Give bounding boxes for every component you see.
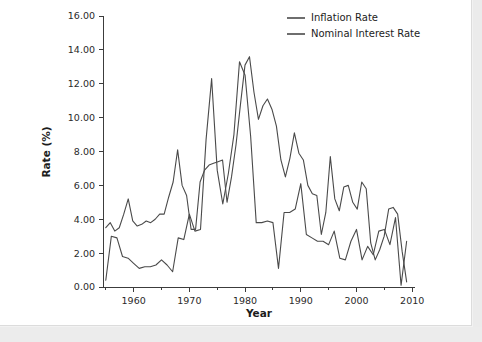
y-tick-label: 4.00 [74,214,95,225]
x-tick-label: 2000 [344,295,368,306]
y-tick-label: 0.00 [74,281,95,292]
y-tick-label: 14.00 [68,44,95,55]
series-line-nominal-interest-rate [106,57,407,282]
x-tick-label: 1970 [177,295,201,306]
page-right-margin [473,0,482,327]
y-axis-tick-labels: 0.002.004.006.008.0010.0012.0014.0016.00 [68,10,95,292]
x-tick-label: 1980 [233,295,257,306]
line-chart: 0.002.004.006.008.0010.0012.0014.0016.00… [0,0,472,326]
x-tick-label: 2010 [400,295,424,306]
screenshot-page: 0.002.004.006.008.0010.0012.0014.0016.00… [0,0,482,342]
series-line-inflation-rate [106,62,407,286]
y-tick-label: 6.00 [74,180,95,191]
x-axis-title: Year [245,307,273,319]
page-bottom-margin [0,327,482,342]
x-tick-label: 1960 [122,295,146,306]
legend-label: Nominal Interest Rate [311,28,420,39]
chart-axes [99,16,415,292]
legend-label: Inflation Rate [311,12,378,23]
y-axis-title: Rate (%) [40,126,52,177]
chart-series-group [106,57,407,286]
y-tick-label: 2.00 [74,248,95,259]
y-axis-ticks [99,16,103,287]
y-tick-label: 10.00 [68,112,95,123]
y-tick-label: 8.00 [74,146,95,157]
y-tick-label: 16.00 [68,10,95,21]
x-axis-tick-labels: 196019701980199020002010 [122,295,425,306]
x-tick-label: 1990 [289,295,313,306]
chart-legend: Inflation RateNominal Interest Rate [287,12,420,39]
chart-figure: 0.002.004.006.008.0010.0012.0014.0016.00… [0,0,472,326]
y-tick-label: 12.00 [68,78,95,89]
x-axis-ticks [106,287,412,292]
